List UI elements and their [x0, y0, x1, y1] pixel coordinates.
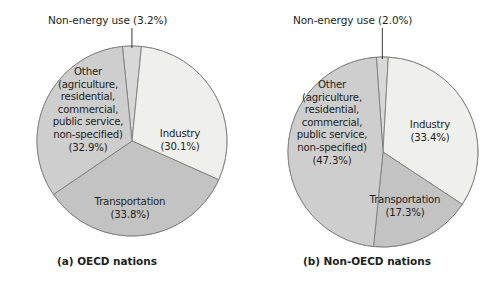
slice-label-line: public service,	[53, 116, 124, 127]
slice-label-line: residential,	[61, 91, 115, 102]
slice-label-line: non-specified)	[297, 142, 367, 153]
slice-label-line: Industry	[160, 128, 200, 139]
svg-text:Other(agriculture,residential,: Other(agriculture,residential,commercial…	[53, 66, 124, 153]
slice-label-industry-oecd: Industry(30.1%)	[160, 128, 200, 152]
slice-label-line: (47.3%)	[313, 155, 352, 166]
callout-label-non-energy-oecd: Non-energy use (3.2%)	[48, 14, 167, 26]
slice-label-line: (17.3%)	[386, 207, 425, 218]
slice-label-line: commercial,	[302, 117, 362, 128]
slice-label-line: Other	[74, 66, 103, 77]
slice-label-line: Transportation	[369, 194, 441, 205]
pie-chart-oecd: Other(agriculture,residential,commercial…	[0, 0, 251, 291]
pie-panel-oecd: Other(agriculture,residential,commercial…	[0, 0, 251, 291]
slice-label-other-oecd: Other(agriculture,residential,commercial…	[53, 66, 124, 153]
slice-label-line: (32.9%)	[69, 142, 108, 153]
slice-label-line: Transportation	[94, 196, 166, 207]
slice-label-line: Other	[318, 79, 347, 90]
slice-label-line: (33.8%)	[111, 209, 150, 220]
panel-caption-oecd: (a) OECD nations	[57, 255, 157, 267]
slice-label-line: (agriculture,	[58, 79, 118, 90]
slice-label-line: (30.1%)	[161, 141, 200, 152]
slice-label-line: (33.4%)	[411, 132, 450, 143]
svg-text:Other(agriculture,residential,: Other(agriculture,residential,commercial…	[297, 79, 368, 166]
callout-label-non-energy-non-oecd: Non-energy use (2.0%)	[293, 14, 412, 26]
slice-label-line: (agriculture,	[302, 92, 362, 103]
panel-caption-non-oecd: (b) Non-OECD nations	[303, 255, 431, 267]
svg-text:Industry(33.4%): Industry(33.4%)	[410, 119, 450, 143]
figure-two-pie-charts: Other(agriculture,residential,commercial…	[0, 0, 503, 291]
slice-label-line: public service,	[297, 129, 368, 140]
svg-text:Industry(30.1%): Industry(30.1%)	[160, 128, 200, 152]
slice-label-line: non-specified)	[53, 129, 123, 140]
slice-label-industry-non-oecd: Industry(33.4%)	[410, 119, 450, 143]
pie-chart-non-oecd: Other(agriculture,residential,commercial…	[252, 0, 503, 291]
slice-label-line: residential,	[305, 104, 359, 115]
slice-label-line: commercial,	[58, 104, 118, 115]
pie-panel-non-oecd: Other(agriculture,residential,commercial…	[252, 0, 503, 291]
slice-label-line: Industry	[410, 119, 450, 130]
slice-label-other-non-oecd: Other(agriculture,residential,commercial…	[297, 79, 368, 166]
